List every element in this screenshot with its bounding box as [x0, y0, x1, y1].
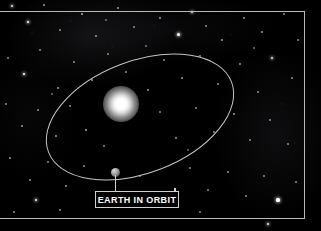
- star: [147, 89, 149, 91]
- star: [199, 55, 201, 57]
- star: [177, 33, 180, 36]
- star: [107, 53, 109, 55]
- star: [249, 139, 251, 141]
- star: [159, 17, 161, 19]
- star: [21, 125, 23, 127]
- star: [139, 175, 141, 177]
- star: [245, 195, 247, 197]
- callout-leader-line: [115, 175, 116, 192]
- star: [125, 71, 127, 73]
- star: [59, 209, 61, 211]
- star: [269, 119, 271, 121]
- star: [207, 189, 209, 191]
- star: [13, 211, 15, 213]
- star: [59, 29, 61, 31]
- star: [227, 171, 229, 173]
- star: [205, 25, 207, 27]
- star: [263, 175, 265, 177]
- star: [181, 77, 183, 79]
- star: [163, 59, 165, 61]
- star: [29, 179, 31, 181]
- star: [7, 57, 9, 59]
- star: [47, 161, 49, 163]
- star: [159, 111, 161, 113]
- star: [257, 91, 259, 93]
- star: [243, 17, 245, 19]
- star: [133, 26, 135, 28]
- star: [283, 13, 285, 15]
- star: [217, 83, 219, 85]
- star: [187, 149, 188, 150]
- star: [195, 107, 197, 109]
- star: [65, 185, 67, 187]
- star: [83, 165, 85, 167]
- star: [103, 145, 105, 147]
- star: [175, 137, 177, 139]
- star: [105, 19, 106, 20]
- star: [253, 47, 254, 48]
- star: [81, 13, 83, 15]
- space-diagram: EARTH IN ORBIT: [0, 0, 321, 231]
- star: [117, 7, 119, 9]
- star: [233, 113, 235, 115]
- star: [43, 4, 45, 6]
- star: [199, 211, 201, 213]
- star: [213, 131, 215, 133]
- star: [57, 87, 59, 89]
- star: [39, 49, 41, 51]
- star: [37, 109, 39, 111]
- star: [9, 157, 11, 159]
- star: [69, 105, 71, 107]
- star: [91, 79, 93, 81]
- star: [291, 77, 293, 79]
- star: [145, 45, 146, 46]
- star: [51, 93, 52, 94]
- star: [95, 35, 97, 37]
- star: [297, 39, 299, 41]
- callout-label-text: EARTH IN ORBIT: [98, 195, 177, 205]
- earth-in-orbit-label: EARTH IN ORBIT: [95, 191, 179, 208]
- star: [5, 103, 7, 105]
- sun-icon: [116, 99, 126, 109]
- star: [73, 61, 75, 63]
- star: [221, 39, 223, 41]
- star: [55, 135, 57, 137]
- star: [295, 181, 297, 183]
- star: [239, 63, 241, 65]
- star: [287, 143, 289, 145]
- star: [261, 31, 263, 33]
- star: [189, 167, 191, 169]
- star: [85, 129, 87, 131]
- star: [276, 198, 279, 201]
